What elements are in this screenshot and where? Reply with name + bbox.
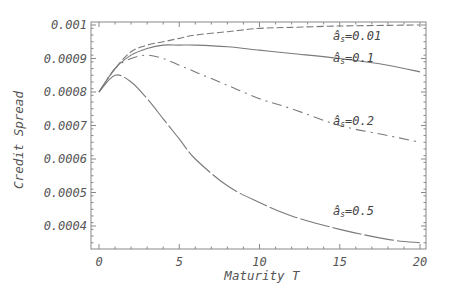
x-axis-title: Maturity T [223, 268, 301, 283]
x-tick-label: 0 [95, 255, 102, 269]
curve-label: âs=0.1 [333, 51, 374, 66]
credit-spread-chart: 051015200.00040.00050.00060.00070.00080.… [0, 0, 449, 301]
curve-dash-dot [99, 55, 420, 142]
curve-label: âs=0.01 [333, 29, 381, 44]
curve-label: âs=0.5 [333, 204, 374, 219]
curve-label: âs=0.2 [333, 114, 374, 129]
y-axis-title: Credit Spread [11, 91, 26, 189]
x-tick-label: 15 [333, 255, 347, 269]
y-tick-label: 0.0009 [44, 52, 87, 66]
y-tick-label: 0.0005 [44, 186, 87, 200]
y-tick-label: 0.0004 [44, 219, 87, 233]
plot-frame [91, 22, 426, 249]
x-tick-label: 10 [252, 255, 266, 269]
x-tick-label: 5 [176, 255, 183, 269]
curve-labels: âs=0.01âs=0.1âs=0.2âs=0.5 [333, 29, 381, 219]
y-tick-label: 0.0008 [44, 85, 87, 99]
y-tick-label: 0.0007 [44, 119, 88, 133]
x-tick-label: 20 [413, 255, 427, 269]
y-tick-label: 0.001 [51, 18, 87, 32]
y-tick-label: 0.0006 [44, 152, 87, 166]
